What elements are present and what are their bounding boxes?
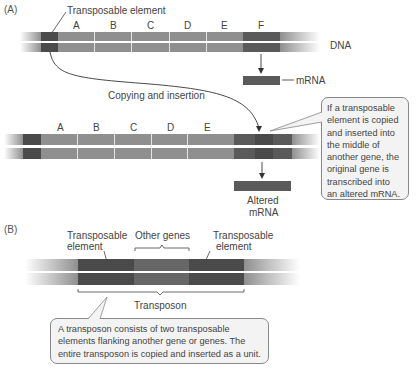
- connector-lines: [0, 0, 419, 378]
